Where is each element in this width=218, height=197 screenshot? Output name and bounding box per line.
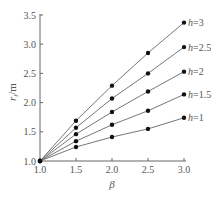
data-point [74,139,78,143]
y-tick-label: 3.0 [24,39,37,50]
series-label: h=2 [188,66,204,77]
data-point [182,116,186,120]
y-axis-label: rl/m [6,83,20,101]
data-point [74,119,78,123]
y-tick-label: 1.5 [24,126,37,137]
data-point [110,123,114,127]
data-point [146,71,150,75]
data-point [146,109,150,113]
data-point [182,69,186,73]
y-tick-label: 3.5 [24,10,37,21]
y-tick-label: 2.0 [24,97,37,108]
axes: 1.01.52.02.53.01.01.52.02.53.03.5 [24,10,191,176]
x-tick-label: 1.5 [70,164,83,175]
data-point [182,92,186,96]
data-point [74,126,78,130]
x-tick-label: 3.0 [178,164,191,175]
series-label: h=1.5 [188,89,211,100]
data-point [74,132,78,136]
data-point [146,127,150,131]
data-point [110,110,114,114]
line-chart: 1.01.52.02.53.01.01.52.02.53.03.5 h=3h=2… [0,0,218,197]
data-point [146,51,150,55]
x-tick-label: 2.0 [106,164,119,175]
data-point [110,135,114,139]
data-point [182,20,186,24]
data-point [146,89,150,93]
series-label: h=3 [188,17,204,28]
data-point [110,83,114,87]
series-h-2-5: h=2.5 [38,42,211,164]
data-point [182,45,186,49]
data-point [38,159,42,163]
series-h-1: h=1 [38,112,204,163]
series-label: h=1 [188,112,204,123]
y-tick-label: 2.5 [24,68,37,79]
x-tick-label: 2.5 [142,164,155,175]
data-point [110,96,114,100]
x-axis-label: β [108,178,115,190]
series-lines: h=3h=2.5h=2h=1.5h=1 [38,17,211,163]
series-label: h=2.5 [188,42,211,53]
data-point [74,145,78,149]
y-tick-label: 1.0 [24,156,37,167]
series-h-3: h=3 [38,17,204,163]
